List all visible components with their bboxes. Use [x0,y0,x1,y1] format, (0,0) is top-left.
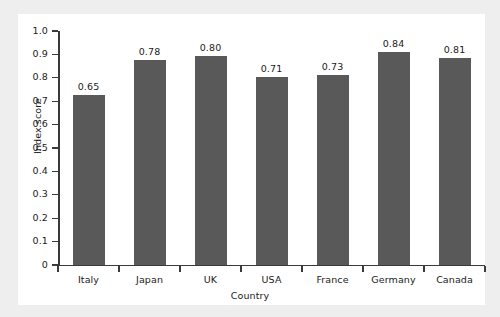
bar[interactable] [256,77,288,265]
y-axis-tick [52,171,58,172]
y-axis-tick-label: 1.0 [22,25,48,36]
y-axis-tick [52,241,58,242]
x-axis-tick-label: UK [180,274,241,285]
y-axis-tick-label: 0.6 [22,118,48,129]
x-axis-tick [362,266,363,272]
x-axis-tick-label: Germany [363,274,424,285]
y-axis-tick [52,30,58,31]
x-axis-tick [57,266,58,272]
x-axis-tick-label: France [302,274,363,285]
y-axis-tick-label: 0.4 [22,165,48,176]
x-axis-title: Country [0,290,500,301]
y-axis-tick-label: 0.8 [22,71,48,82]
bar-value-label: 0.65 [58,81,119,92]
y-axis-tick [52,124,58,125]
x-axis-tick-label: Italy [58,274,119,285]
bar[interactable] [378,52,410,265]
bar[interactable] [317,75,349,265]
y-axis-tick-label: 0.1 [22,235,48,246]
y-axis-tick-label: 0.3 [22,188,48,199]
x-axis-tick [423,266,424,272]
x-axis-tick-label: Japan [119,274,180,285]
bar-value-label: 0.73 [302,61,363,72]
bar-value-label: 0.71 [241,63,302,74]
x-axis-tick-label: Canada [424,274,485,285]
y-axis-tick-label: 0 [22,259,48,270]
x-axis-tick [301,266,302,272]
x-axis-tick [240,266,241,272]
x-axis-tick [484,266,485,272]
bar[interactable] [439,58,471,265]
y-axis-tick-label: 0.9 [22,48,48,59]
bar[interactable] [134,60,166,265]
bar-value-label: 0.81 [424,44,485,55]
y-axis-tick [52,54,58,55]
y-axis-tick [52,77,58,78]
bar-value-label: 0.78 [119,46,180,57]
bar[interactable] [195,56,227,265]
bar[interactable] [73,95,105,265]
x-axis-tick [118,266,119,272]
bar-value-label: 0.84 [363,38,424,49]
bar-chart-figure: Index score 00.10.20.30.40.50.60.70.80.9… [0,0,500,317]
y-axis-tick [52,218,58,219]
x-axis-tick-label: USA [241,274,302,285]
y-axis-tick-label: 0.5 [22,142,48,153]
y-axis-tick [52,101,58,102]
bar-value-label: 0.80 [180,42,241,53]
y-axis-line [58,31,60,265]
y-axis-tick [52,194,58,195]
y-axis-tick-label: 0.7 [22,95,48,106]
y-axis-tick [52,147,58,148]
x-axis-tick [179,266,180,272]
y-axis-tick-label: 0.2 [22,212,48,223]
